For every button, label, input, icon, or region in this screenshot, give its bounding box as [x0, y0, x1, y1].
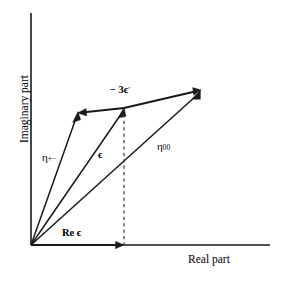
- connector-minus-three-epsilon-prime-left: [78, 108, 124, 116]
- vector-eta-zero-zero-subscript: 00: [163, 143, 170, 152]
- vector-epsilon-label-wrapper: ϵ: [98, 144, 102, 162]
- vector-eta-zero-zero-shaft: [31, 95, 198, 246]
- x-axis-label-wrapper: Real part: [188, 249, 230, 267]
- vector-diagram-figure: Imaginary part Real part η+− ϵ η00 − 3ϵ′…: [0, 0, 284, 285]
- axes-group: [31, 13, 270, 245]
- real-part-projection-arrow: [31, 241, 124, 248]
- real-part-label: Re ϵ: [62, 227, 81, 238]
- vector-eta-zero-zero: [31, 90, 201, 246]
- vector-diagram-canvas: [0, 0, 284, 285]
- vector-eta-plus-minus-subscript: +−: [48, 154, 56, 163]
- x-axis-label: Real part: [188, 253, 230, 265]
- real-part-arrowhead: [116, 241, 125, 248]
- vector-eta-zero-zero-label-wrapper: η00: [157, 136, 170, 154]
- minus-three-epsilon-prime-label: − 3ϵ: [110, 84, 128, 95]
- connector-label-wrapper: − 3ϵ′: [110, 79, 130, 97]
- connector-minus-three-epsilon-prime-right: [124, 88, 201, 108]
- real-part-label-wrapper: Re ϵ: [62, 222, 81, 240]
- vector-epsilon-label: ϵ: [98, 149, 102, 160]
- vector-eta-plus-minus-label-wrapper: η+−: [42, 147, 56, 165]
- y-axis-label-wrapper: Imaginary part: [14, 54, 32, 164]
- connector-left-shaft: [82, 108, 124, 113]
- minus-three-epsilon-prime-mark: ′: [128, 86, 130, 95]
- y-axis-label: Imaginary part: [18, 75, 30, 143]
